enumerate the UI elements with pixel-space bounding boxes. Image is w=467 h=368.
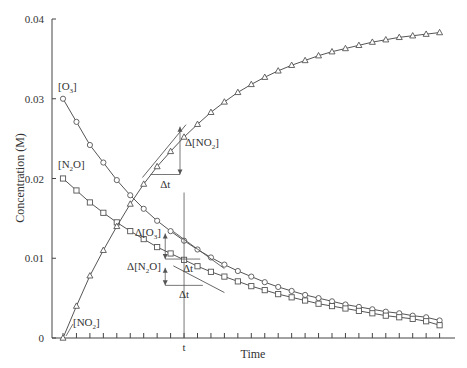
circle-marker xyxy=(87,142,92,147)
square-marker xyxy=(74,188,79,193)
y-tick-label: 0.02 xyxy=(25,173,44,185)
triangle-marker xyxy=(437,29,443,34)
triangle-marker xyxy=(87,273,93,278)
circle-marker xyxy=(262,280,267,285)
chart-svg: 00.010.020.030.04t [O3][N2O][NO2] Δ[NO2]… xyxy=(0,0,467,368)
triangle-marker xyxy=(73,303,79,308)
square-marker xyxy=(60,176,65,181)
circle-marker xyxy=(155,218,160,223)
square-marker xyxy=(195,264,200,269)
circle-marker xyxy=(168,229,173,234)
square-marker xyxy=(222,274,227,279)
arrow-head xyxy=(163,280,168,285)
y-tick-label: 0 xyxy=(39,332,45,344)
label-NO2: [NO2] xyxy=(73,316,100,331)
square-marker xyxy=(101,210,106,215)
concentration-vs-time-chart: 00.010.020.030.04t [O3][N2O][NO2] Δ[NO2]… xyxy=(0,0,467,368)
circle-marker xyxy=(128,193,133,198)
triangle-marker xyxy=(208,109,214,114)
square-marker xyxy=(235,279,240,284)
label-NO2-leader xyxy=(66,324,73,336)
y-tick-label: 0.03 xyxy=(25,93,45,105)
square-marker xyxy=(397,315,402,320)
square-marker xyxy=(276,292,281,297)
square-marker xyxy=(343,306,348,311)
circle-marker xyxy=(316,296,321,301)
y-tick-label: 0.04 xyxy=(25,13,45,25)
circle-marker xyxy=(235,268,240,273)
circle-marker xyxy=(114,177,119,182)
triangle-marker xyxy=(235,89,241,94)
circle-marker xyxy=(141,206,146,211)
square-marker xyxy=(168,251,173,256)
triangle-marker xyxy=(100,247,106,252)
label-N2O: [N2O] xyxy=(58,158,85,173)
square-marker xyxy=(424,319,429,324)
series-group: [O3][N2O][NO2] xyxy=(58,29,443,340)
square-marker xyxy=(410,316,415,321)
delta-t-label: Δt xyxy=(179,288,189,300)
circle-marker xyxy=(222,262,227,267)
series-line xyxy=(63,33,440,338)
delta-N2O-label: Δ[N2O] xyxy=(127,260,161,275)
square-marker xyxy=(303,298,308,303)
circle-marker xyxy=(74,119,79,124)
circle-marker xyxy=(249,274,254,279)
square-marker xyxy=(128,229,133,234)
arrow-head xyxy=(163,268,168,273)
arrow-head xyxy=(163,254,168,259)
square-marker xyxy=(437,323,442,328)
x-axis-label: Time xyxy=(241,347,266,361)
square-marker xyxy=(370,311,375,316)
square-marker xyxy=(356,308,361,313)
triangle-marker xyxy=(221,99,227,104)
square-marker xyxy=(208,269,213,274)
delta-O3-label: Δ[O3] xyxy=(135,226,161,241)
delta-t-label: Δt xyxy=(183,262,193,274)
triangle-marker xyxy=(248,81,254,86)
circle-marker xyxy=(60,96,65,101)
series-line xyxy=(63,179,440,326)
delta-NO2-label: Δ[NO2] xyxy=(185,136,219,151)
y-tick-label: 0.01 xyxy=(25,252,44,264)
delta-t-label: Δt xyxy=(160,178,170,190)
square-marker xyxy=(249,284,254,289)
annotations: Δ[NO2]ΔtΔ[O3]ΔtΔ[N2O]Δt xyxy=(127,125,224,338)
square-marker xyxy=(262,288,267,293)
tangent-O3 xyxy=(173,232,224,269)
y-axis-label: Concentration (M) xyxy=(13,133,27,223)
circle-marker xyxy=(276,284,281,289)
arrow-head xyxy=(163,234,168,239)
circle-marker xyxy=(101,160,106,165)
square-marker xyxy=(155,244,160,249)
square-marker xyxy=(316,301,321,306)
square-marker xyxy=(329,304,334,309)
square-marker xyxy=(289,295,294,300)
x-tick-label-t: t xyxy=(183,341,186,353)
square-marker xyxy=(383,313,388,318)
square-marker xyxy=(87,200,92,205)
axes: 00.010.020.030.04t xyxy=(25,13,455,353)
label-O3: [O3] xyxy=(58,80,77,95)
circle-marker xyxy=(303,292,308,297)
circle-marker xyxy=(289,288,294,293)
arrow-head xyxy=(178,170,183,175)
